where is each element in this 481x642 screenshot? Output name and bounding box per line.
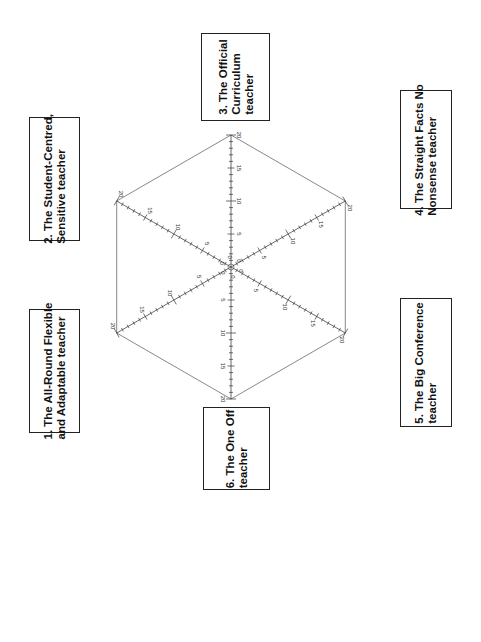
label-text: 5. The Big Conference teacher [413,302,439,423]
tick-mark [258,280,262,286]
label-line: Curriculum [229,39,242,114]
label-line: Nonsense teacher [426,84,439,216]
tick-label: 10 [175,224,181,231]
label-line: Sensitive teacher [55,114,68,244]
tick-mark [201,280,205,286]
label-line: and Adaptable teacher [55,303,68,440]
label-text: 2. The Student-Centred, Sensitive teache… [42,114,68,244]
label-line: 4. The Straight Facts No [413,84,426,216]
tick-mark [315,313,319,319]
tick-label: 10 [220,330,226,337]
tick-label: 10 [282,304,288,311]
label-box-1-all-round-flexible: 1. The All-Round Flexible and Adaptable … [29,309,80,433]
label-box-6-one-off: 6. The One Off teacher [203,407,270,490]
tick-label: 20 [236,132,242,139]
label-line: 1. The All-Round Flexible [42,303,55,440]
label-line: teacher [242,39,255,114]
axis-1: 05101520 [110,261,231,337]
tick-label: 20 [220,396,226,403]
label-box-3-official-curriculum: 3. The Official Curriculum teacher [201,33,270,121]
label-line: 3. The Official [216,39,229,114]
label-box-2-student-centred: 2. The Student-Centred, Sensitive teache… [29,117,80,241]
axis-3: 05101520 [226,132,242,267]
tick-label: 5 [236,232,242,236]
label-line: 6. The One Off [224,409,237,488]
tick-label: 15 [139,306,145,313]
tick-label: 15 [318,221,324,228]
tick-label: 20 [347,205,353,212]
label-text: 1. The All-Round Flexible and Adaptable … [42,303,68,440]
tick-label: 20 [118,191,124,198]
label-text: 4. The Straight Facts No Nonsense teache… [413,84,439,216]
label-line: 5. The Big Conference [413,302,426,423]
label-line: teacher [237,409,250,488]
tick-mark [171,230,176,239]
tick-label: 15 [147,207,153,214]
tick-mark [315,214,319,220]
tick-label: 0 [230,275,236,279]
tick-label: 10 [236,198,242,205]
label-box-4-straight-facts: 4. The Straight Facts No Nonsense teache… [400,90,452,209]
tick-label: 20 [339,337,345,344]
tick-label: 0 [227,255,233,259]
tick-label: 10 [290,238,296,245]
tick-mark [201,247,205,253]
tick-mark [144,214,148,220]
tick-label: 0 [220,271,226,275]
axis-6: 05101520 [220,267,236,403]
tick-label: 15 [236,165,242,172]
tick-label: 5 [220,298,226,302]
axes-group: 0510152005101520051015200510152005101520… [110,132,353,403]
tick-mark [258,247,262,253]
label-line: 2. The Student-Centred, [42,114,55,244]
tick-mark [144,313,148,319]
label-text: 6. The One Off teacher [224,409,250,488]
label-text: 3. The Official Curriculum teacher [216,39,255,114]
tick-label: 10 [167,290,173,297]
tick-label: 20 [110,323,116,330]
tick-label: 15 [220,363,226,370]
tick-label: 5 [253,289,259,293]
tick-label: 15 [310,320,316,327]
axis-5: 05101520 [230,267,348,344]
tick-mark [171,296,176,305]
tick-label: 5 [196,275,202,279]
axis-4: 05101520 [231,197,353,274]
label-box-5-big-conference: 5. The Big Conference teacher [400,298,452,427]
axis-2: 05101520 [114,191,233,267]
tick-label: 5 [261,256,267,260]
tick-label: 5 [204,242,210,246]
label-line: teacher [426,302,439,423]
